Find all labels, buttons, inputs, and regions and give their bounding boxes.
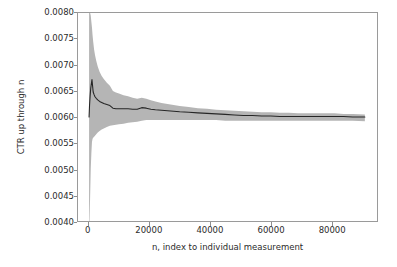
x-tick-label: 40000 [196, 226, 223, 235]
x-tick-label: 20000 [135, 226, 162, 235]
y-tick-label: 0.0080 [28, 8, 74, 17]
y-tick-label: 0.0075 [28, 34, 74, 43]
y-tick-label: 0.0050 [28, 165, 74, 174]
x-tick-label: 0 [85, 226, 90, 235]
chart-figure: 0.00400.00450.00500.00550.00600.00650.00… [0, 0, 397, 267]
y-tick-label: 0.0045 [28, 192, 74, 201]
y-axis-label: CTR up through n [14, 12, 28, 222]
y-tick-mark [74, 222, 78, 223]
plot-canvas [78, 13, 377, 221]
x-tick-label: 60000 [258, 226, 285, 235]
x-tick-label: 80000 [319, 226, 346, 235]
y-tick-label: 0.0065 [28, 87, 74, 96]
y-tick-label: 0.0055 [28, 139, 74, 148]
y-tick-label: 0.0070 [28, 60, 74, 69]
plot-area [77, 12, 378, 222]
x-axis-label: n, index to individual measurement [77, 242, 378, 252]
y-tick-label: 0.0060 [28, 113, 74, 122]
y-tick-label: 0.0040 [28, 218, 74, 227]
y-axis-tick-labels: 0.00400.00450.00500.00550.00600.00650.00… [24, 0, 74, 267]
